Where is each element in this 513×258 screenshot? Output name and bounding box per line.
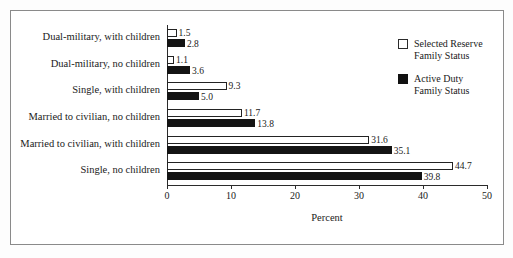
bar-value-label: 1.5 [179, 28, 191, 38]
bar-value-label: 3.6 [192, 66, 204, 76]
legend-label-line1: Selected Reserve [414, 38, 498, 50]
x-tick-label: 10 [216, 190, 246, 202]
bar-value-label: 13.8 [257, 119, 274, 129]
bar-selected-reserve [167, 109, 242, 117]
legend-label-line2: Family Status [414, 85, 498, 97]
bar-selected-reserve [167, 29, 177, 37]
bar-selected-reserve [167, 56, 174, 64]
x-tick-label: 20 [280, 190, 310, 202]
category-label: Dual-military, no children [0, 58, 160, 70]
bar-active-duty [167, 92, 199, 100]
bar-value-label: 44.7 [455, 161, 472, 171]
category-label: Single, no children [0, 164, 160, 176]
x-tick-label: 50 [472, 190, 502, 202]
bar-value-label: 35.1 [394, 146, 411, 156]
x-tick-label: 30 [344, 190, 374, 202]
category-label: Single, with children [0, 84, 160, 96]
x-tick-mark [487, 185, 488, 189]
legend-swatch-icon [398, 39, 408, 49]
bar-value-label: 9.3 [229, 81, 241, 91]
bar-selected-reserve [167, 136, 369, 144]
bar-group: Single, no children44.739.8 [167, 160, 487, 186]
chart-figure: 01020304050 Percent Dual-military, with … [0, 0, 513, 258]
category-label: Married to civilian, no children [0, 111, 160, 123]
bar-value-label: 11.7 [244, 108, 260, 118]
legend-label-line2: Family Status [414, 50, 498, 62]
chart-legend: Selected ReserveFamily StatusActive Duty… [398, 38, 498, 108]
legend-swatch-icon [398, 74, 408, 84]
bar-active-duty [167, 39, 185, 47]
bar-selected-reserve [167, 162, 453, 170]
category-label: Married to civilian, with children [0, 138, 160, 150]
bar-active-duty [167, 66, 190, 74]
bar-group: Married to civilian, with children31.635… [167, 134, 487, 160]
bar-value-label: 2.8 [187, 39, 199, 49]
bar-active-duty [167, 119, 255, 127]
bar-group: Married to civilian, no children11.713.8 [167, 107, 487, 133]
legend-item: Active DutyFamily Status [398, 73, 498, 96]
x-axis-title: Percent [167, 212, 487, 223]
x-tick-label: 40 [408, 190, 438, 202]
bar-active-duty [167, 172, 422, 180]
x-tick-label: 0 [152, 190, 182, 202]
bar-active-duty [167, 146, 392, 154]
bar-value-label: 31.6 [371, 135, 388, 145]
bar-value-label: 1.1 [176, 55, 188, 65]
legend-item: Selected ReserveFamily Status [398, 38, 498, 61]
category-label: Dual-military, with children [0, 31, 160, 43]
bar-value-label: 39.8 [424, 172, 441, 182]
bar-value-label: 5.0 [201, 92, 213, 102]
bar-selected-reserve [167, 82, 227, 90]
legend-label-line1: Active Duty [414, 73, 498, 85]
